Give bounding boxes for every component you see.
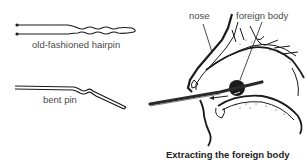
label-nose: nose <box>189 11 210 21</box>
diagram-caption: Extracting the foreign body <box>166 150 290 160</box>
diagram-canvas <box>0 0 307 166</box>
label-bent-pin: bent pin <box>43 95 77 105</box>
label-foreign-body: foreign body <box>236 11 288 21</box>
hairpin-illustration <box>16 24 135 35</box>
label-old-fashioned-hairpin: old-fashioned hairpin <box>32 40 120 50</box>
nose-cross-section-illustration <box>150 14 304 146</box>
